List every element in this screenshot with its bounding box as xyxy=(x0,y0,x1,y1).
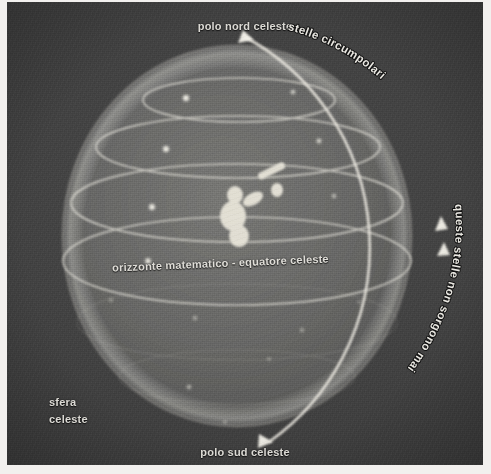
curved-label-layer: stelle circumpolari queste stelle non so… xyxy=(7,2,483,465)
scanned-plate: polo nord celeste polo sud celeste orizz… xyxy=(7,2,483,465)
label-stars-never-rise: queste stelle non sorgono mai xyxy=(405,204,465,375)
label-circumpolar-stars: stelle circumpolari xyxy=(287,20,388,81)
celestial-sphere-figure: polo nord celeste polo sud celeste orizz… xyxy=(0,0,491,474)
